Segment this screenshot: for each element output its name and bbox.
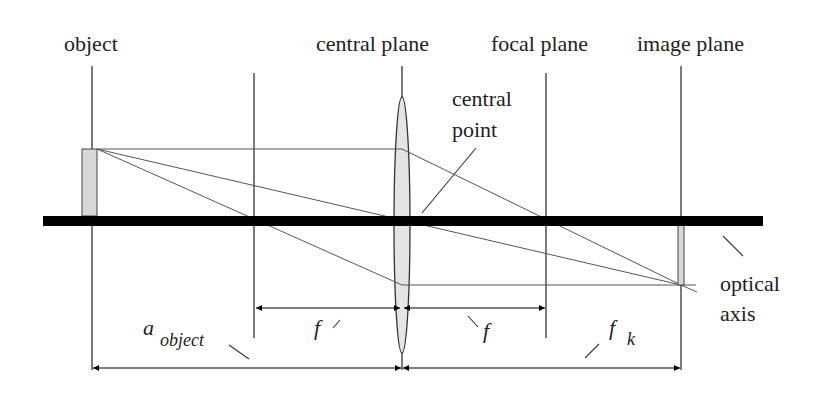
label-optical-axis-2: axis bbox=[720, 301, 755, 326]
label-optical-axis-1: optical bbox=[720, 271, 780, 296]
label-central-point-2: point bbox=[452, 117, 497, 142]
dim-label-a: a bbox=[143, 315, 154, 340]
label-central-point-1: central bbox=[452, 86, 512, 111]
thin-lens-diagram: object central plane focal plane image p… bbox=[0, 0, 828, 394]
label-focal-plane: focal plane bbox=[491, 31, 588, 56]
image-arrow bbox=[678, 225, 684, 285]
label-central-plane: central plane bbox=[316, 31, 429, 56]
dim-label-f-right: f bbox=[483, 318, 492, 343]
dim-label-f-left: f bbox=[314, 315, 323, 340]
object-arrow bbox=[82, 149, 97, 216]
label-image-plane: image plane bbox=[637, 31, 744, 56]
optical-axis bbox=[43, 216, 763, 226]
dim-label-fk-sub: k bbox=[627, 329, 636, 349]
label-object: object bbox=[64, 31, 118, 56]
dim-label-a-sub: object bbox=[160, 330, 205, 350]
dim-label-fk: f bbox=[609, 315, 618, 340]
